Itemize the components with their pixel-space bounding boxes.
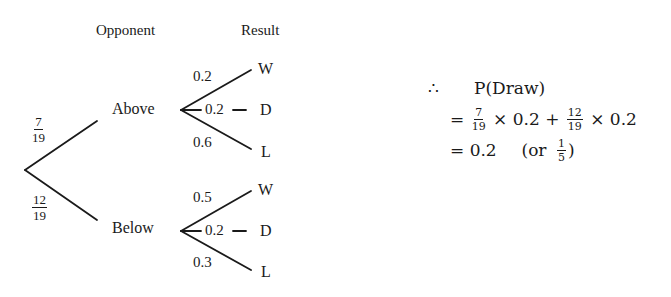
calc-line-3: = 0.2 (or 15) bbox=[450, 139, 575, 164]
prob-above-loss: 0.6 bbox=[193, 134, 212, 151]
prob-above-win: 0.2 bbox=[193, 68, 212, 85]
result-above-win: W bbox=[258, 60, 273, 78]
prob-below-loss: 0.3 bbox=[193, 254, 212, 271]
result-below-loss: L bbox=[261, 263, 271, 281]
therefore-symbol: ∴ bbox=[428, 78, 439, 98]
calc-line-2: = 719 × 0.2 + 1219 × 0.2 bbox=[450, 108, 637, 133]
fraction-12-19: 1219 bbox=[567, 107, 583, 132]
fraction-7-19: 719 bbox=[472, 107, 486, 132]
prob-below-win: 0.5 bbox=[193, 189, 212, 206]
header-opponent: Opponent bbox=[96, 22, 155, 39]
node-below: Below bbox=[112, 219, 154, 237]
result-above-draw: D bbox=[260, 101, 272, 119]
result-above-loss: L bbox=[261, 143, 271, 161]
fraction-1-5: 15 bbox=[557, 138, 566, 163]
result-below-draw: D bbox=[260, 222, 272, 240]
result-below-win: W bbox=[258, 181, 273, 199]
prob-below: 1219 bbox=[32, 193, 47, 222]
node-above: Above bbox=[112, 100, 155, 118]
prob-above-draw: 0.2 bbox=[205, 101, 224, 118]
prob-below-draw: 0.2 bbox=[205, 222, 224, 239]
calc-line-1: P(Draw) bbox=[474, 78, 545, 98]
header-result: Result bbox=[241, 22, 279, 39]
prob-above: 719 bbox=[32, 115, 45, 144]
